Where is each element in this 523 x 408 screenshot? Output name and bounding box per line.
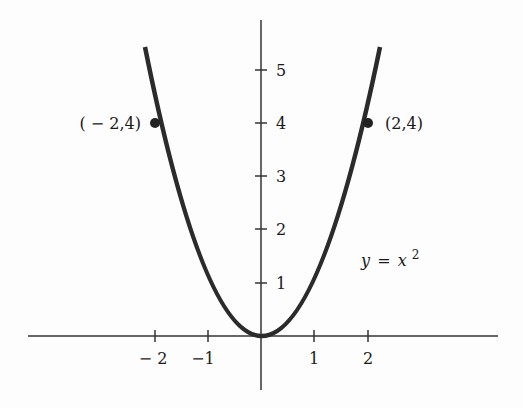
y-tick-label: 4 — [276, 114, 286, 133]
function-label-base: x — [398, 251, 407, 270]
y-tick-label: 2 — [276, 220, 286, 239]
point-marker-2-4 — [363, 118, 373, 128]
function-label-eq: = — [377, 251, 390, 270]
y-tick-label: 1 — [276, 274, 286, 293]
y-tick-label: 5 — [276, 61, 286, 80]
point-marker-neg2-4 — [150, 118, 160, 128]
x-tick-label: − 2 — [139, 349, 168, 368]
function-label-exp: 2 — [412, 248, 420, 262]
function-label: y = x 2 — [360, 248, 419, 270]
point-label-left: ( − 2,4) — [79, 114, 141, 133]
chart-canvas: − 2 −1 1 2 1 2 3 4 5 ( − 2,4) (2,4) y = … — [0, 0, 523, 408]
x-tick-label: 2 — [363, 349, 373, 368]
parabola-chart: − 2 −1 1 2 1 2 3 4 5 ( − 2,4) (2,4) y = … — [0, 0, 523, 408]
parabola-curve — [145, 47, 380, 336]
function-label-lhs: y — [360, 251, 371, 270]
x-tick-label: 1 — [309, 349, 319, 368]
y-tick-label: 3 — [276, 167, 286, 186]
x-tick-label: −1 — [191, 349, 215, 368]
point-label-right: (2,4) — [385, 114, 423, 133]
